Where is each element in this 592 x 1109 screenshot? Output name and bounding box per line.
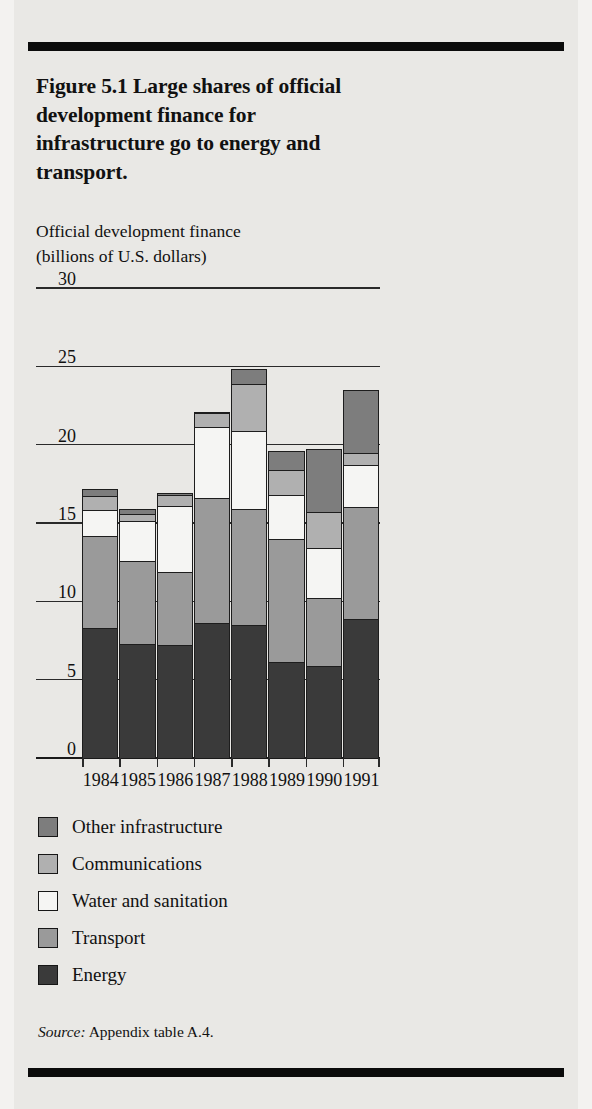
bar-1988[interactable] <box>231 288 267 758</box>
x-tick-label-1991: 1991 <box>343 770 379 791</box>
bar-segment-1990-other-infrastructure[interactable] <box>306 449 342 512</box>
bar-segment-1986-water-and-sanitation[interactable] <box>157 506 193 572</box>
legend-label-transport: Transport <box>72 928 145 947</box>
axis-caption-line-1: Official development finance <box>36 219 376 244</box>
bar-segment-1989-energy[interactable] <box>268 662 304 758</box>
bar-segment-1990-water-and-sanitation[interactable] <box>306 548 342 598</box>
x-tick-label-1988: 1988 <box>232 770 268 791</box>
y-tick-label-5: 5 <box>67 662 76 680</box>
bar-1984[interactable] <box>82 288 118 758</box>
y-tick-label-20: 20 <box>58 427 76 445</box>
source-label: Source: <box>38 1023 86 1040</box>
x-tick-label-1985: 1985 <box>120 770 156 791</box>
legend-label-communications: Communications <box>72 854 202 873</box>
chart-plot-area: 051015202530 198419851986198719881989199… <box>36 288 380 758</box>
legend-label-water-and-sanitation: Water and sanitation <box>72 891 228 910</box>
figure-title: Figure 5.1 Large shares of official deve… <box>36 72 366 186</box>
chart-legend: Other infrastructureCommunicationsWater … <box>38 808 378 993</box>
y-tick-label-25: 25 <box>58 348 76 366</box>
y-tick-label-15: 15 <box>58 505 76 523</box>
legend-label-energy: Energy <box>72 965 127 984</box>
bar-segment-1989-other-infrastructure[interactable] <box>268 451 304 470</box>
bar-1987[interactable] <box>194 288 230 758</box>
bar-segment-1987-other-infrastructure[interactable] <box>194 412 230 414</box>
bar-segment-1985-transport[interactable] <box>119 561 155 644</box>
bar-segment-1985-other-infrastructure[interactable] <box>119 509 155 514</box>
x-tick-label-1984: 1984 <box>83 770 119 791</box>
bar-1991[interactable] <box>343 288 379 758</box>
bar-1989[interactable] <box>268 288 304 758</box>
bar-segment-1991-transport[interactable] <box>343 507 379 618</box>
bar-segment-1984-communications[interactable] <box>82 496 118 510</box>
source-value: Appendix table A.4. <box>86 1023 214 1040</box>
legend-item-transport[interactable]: Transport <box>38 919 378 956</box>
page-edge-right <box>578 0 592 1109</box>
bar-segment-1989-communications[interactable] <box>268 470 304 495</box>
bar-segment-1990-energy[interactable] <box>306 666 342 758</box>
figure-container: Figure 5.1 Large shares of official deve… <box>0 0 592 1109</box>
bar-1990[interactable] <box>306 288 342 758</box>
bar-segment-1987-communications[interactable] <box>194 413 230 427</box>
bar-1985[interactable] <box>119 288 155 758</box>
axis-caption: Official development finance (billions o… <box>36 219 376 269</box>
legend-swatch-communications <box>38 854 58 874</box>
x-tick-label-1990: 1990 <box>306 770 342 791</box>
bar-segment-1984-water-and-sanitation[interactable] <box>82 510 118 535</box>
bar-segment-1990-transport[interactable] <box>306 598 342 665</box>
x-tick-label-1987: 1987 <box>194 770 230 791</box>
bar-segment-1985-energy[interactable] <box>119 644 155 758</box>
legend-item-other-infrastructure[interactable]: Other infrastructure <box>38 808 378 845</box>
bar-segment-1991-other-infrastructure[interactable] <box>343 390 379 453</box>
bar-1986[interactable] <box>157 288 193 758</box>
bar-segment-1987-energy[interactable] <box>194 623 230 758</box>
bar-segment-1989-transport[interactable] <box>268 539 304 663</box>
bar-segment-1989-water-and-sanitation[interactable] <box>268 495 304 539</box>
bar-segment-1984-transport[interactable] <box>82 536 118 628</box>
y-tick-label-10: 10 <box>58 583 76 601</box>
bar-segment-1986-communications[interactable] <box>157 495 193 506</box>
bar-segment-1988-transport[interactable] <box>231 509 267 625</box>
y-tick-label-30: 30 <box>58 270 76 288</box>
bar-segment-1985-communications[interactable] <box>119 514 155 522</box>
plot-canvas <box>82 288 380 758</box>
x-tick-label-1989: 1989 <box>269 770 305 791</box>
bar-segment-1991-energy[interactable] <box>343 619 379 758</box>
bar-segment-1987-transport[interactable] <box>194 498 230 623</box>
rule-top <box>28 42 564 51</box>
bar-segment-1988-other-infrastructure[interactable] <box>231 369 267 383</box>
x-axis-labels: 19841985198619871988198919901991 <box>82 762 380 792</box>
bar-segment-1988-water-and-sanitation[interactable] <box>231 431 267 509</box>
bar-segment-1988-energy[interactable] <box>231 625 267 758</box>
legend-swatch-energy <box>38 965 58 985</box>
legend-swatch-transport <box>38 928 58 948</box>
bar-segment-1991-water-and-sanitation[interactable] <box>343 465 379 507</box>
x-tick-label-1986: 1986 <box>157 770 193 791</box>
rule-bottom <box>28 1068 564 1077</box>
bar-segment-1986-transport[interactable] <box>157 572 193 646</box>
legend-swatch-other-infrastructure <box>38 817 58 837</box>
legend-item-communications[interactable]: Communications <box>38 845 378 882</box>
bar-segment-1986-energy[interactable] <box>157 645 193 758</box>
y-tick-label-0: 0 <box>67 740 76 758</box>
bar-segment-1987-water-and-sanitation[interactable] <box>194 427 230 498</box>
bar-series-group <box>82 288 380 758</box>
bar-segment-1984-energy[interactable] <box>82 628 118 758</box>
legend-swatch-water-and-sanitation <box>38 891 58 911</box>
source-note: Source: Appendix table A.4. <box>38 1023 214 1041</box>
bar-segment-1985-water-and-sanitation[interactable] <box>119 521 155 560</box>
bar-segment-1991-communications[interactable] <box>343 453 379 466</box>
legend-item-water-and-sanitation[interactable]: Water and sanitation <box>38 882 378 919</box>
legend-item-energy[interactable]: Energy <box>38 956 378 993</box>
legend-label-other-infrastructure: Other infrastructure <box>72 817 222 836</box>
axis-caption-line-2: (billions of U.S. dollars) <box>36 244 376 269</box>
bar-segment-1984-other-infrastructure[interactable] <box>82 489 118 497</box>
bar-segment-1990-communications[interactable] <box>306 512 342 548</box>
bar-segment-1988-communications[interactable] <box>231 384 267 431</box>
page-edge-left <box>0 0 14 1109</box>
bar-segment-1986-other-infrastructure[interactable] <box>157 493 193 495</box>
